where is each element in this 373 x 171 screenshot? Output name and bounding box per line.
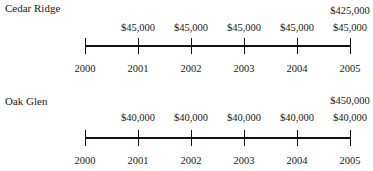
year-label: 2001 [128,155,149,166]
cash-flow-2005: $40,000 [333,112,367,123]
tick-2001 [138,130,140,146]
timeline-oak-glen: Oak Glen $450,000 $40,000 $40,000 $40,00… [0,85,373,171]
cash-flow-2003: $40,000 [227,112,261,123]
tick-2005 [350,38,352,54]
timeline-axis [85,137,351,139]
tick-2003 [244,38,246,54]
tick-2000 [85,130,87,146]
cash-flow-2001: $45,000 [121,22,155,33]
timeline-axis [85,45,351,47]
year-label: 2005 [340,155,361,166]
cash-flow-2003: $45,000 [227,22,261,33]
cash-flow-2002: $40,000 [174,112,208,123]
timeline-title: Oak Glen [5,95,47,107]
tick-2004 [297,130,299,146]
cash-flow-2004: $40,000 [280,112,314,123]
extra-final-amount: $425,000 [330,5,369,16]
year-label: 2001 [128,63,149,74]
cash-flow-2005: $45,000 [333,22,367,33]
year-label: 2005 [340,63,361,74]
cash-flow-2002: $45,000 [174,22,208,33]
year-label: 2004 [287,63,308,74]
tick-2000 [85,38,87,54]
year-label: 2003 [234,63,255,74]
year-label: 2002 [181,155,202,166]
year-label: 2004 [287,155,308,166]
tick-2003 [244,130,246,146]
tick-2002 [191,38,193,54]
year-label: 2002 [181,63,202,74]
cash-flow-2001: $40,000 [121,112,155,123]
tick-2002 [191,130,193,146]
cash-flow-2004: $45,000 [280,22,314,33]
extra-final-amount: $450,000 [330,95,369,106]
timeline-cedar-ridge: Cedar Ridge $425,000 $45,000 $45,000 $45… [0,0,373,85]
year-label: 2000 [75,155,96,166]
tick-2005 [350,130,352,146]
timeline-title: Cedar Ridge [5,2,60,14]
year-label: 2000 [75,63,96,74]
year-label: 2003 [234,155,255,166]
tick-2004 [297,38,299,54]
tick-2001 [138,38,140,54]
